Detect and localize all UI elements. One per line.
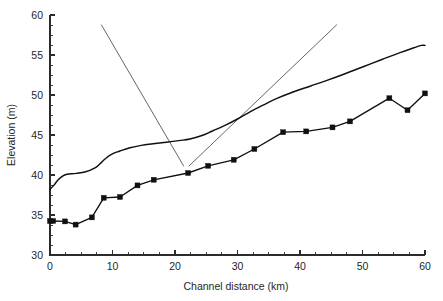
x-tick-label: 50 xyxy=(357,260,369,272)
x-axis-title: Channel distance (km) xyxy=(183,280,288,292)
data-point-marker xyxy=(51,219,56,224)
y-tick-label: 55 xyxy=(31,49,43,61)
y-tick-label: 35 xyxy=(31,209,43,221)
data-point-marker xyxy=(304,129,309,134)
data-point-marker xyxy=(231,157,236,162)
data-point-marker xyxy=(135,183,140,188)
chart-figure: 303540455055600102030405060 Channel dist… xyxy=(0,0,443,301)
data-point-marker xyxy=(73,222,78,227)
data-point-marker xyxy=(387,96,392,101)
data-point-marker xyxy=(206,163,211,168)
x-tick-label: 30 xyxy=(232,260,244,272)
data-point-marker xyxy=(281,130,286,135)
data-point-marker xyxy=(89,215,94,220)
x-tick-label: 40 xyxy=(294,260,306,272)
data-point-marker xyxy=(330,125,335,130)
y-tick-label: 30 xyxy=(31,249,43,261)
data-point-marker xyxy=(405,108,410,113)
data-point-marker xyxy=(423,91,428,96)
x-tick-label: 60 xyxy=(419,260,431,272)
data-point-marker xyxy=(101,195,106,200)
data-point-marker xyxy=(348,119,353,124)
data-point-marker xyxy=(63,219,68,224)
y-tick-label: 50 xyxy=(31,89,43,101)
y-axis-title: Elevation (m) xyxy=(5,104,17,166)
y-tick-label: 60 xyxy=(31,9,43,21)
data-point-marker xyxy=(151,177,156,182)
chart-background xyxy=(0,0,443,301)
x-tick-label: 20 xyxy=(169,260,181,272)
data-point-marker xyxy=(118,195,123,200)
data-point-marker xyxy=(252,147,257,152)
x-tick-label: 10 xyxy=(107,260,119,272)
chart-plot-area: 303540455055600102030405060 Channel dist… xyxy=(0,0,443,301)
data-point-marker xyxy=(186,171,191,176)
y-tick-label: 45 xyxy=(31,129,43,141)
x-tick-label: 0 xyxy=(47,260,53,272)
y-tick-label: 40 xyxy=(31,169,43,181)
